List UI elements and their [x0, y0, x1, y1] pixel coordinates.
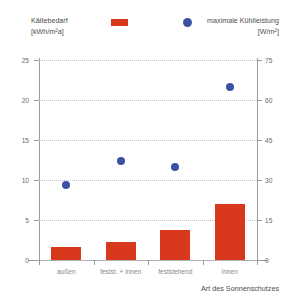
x-tick: [257, 260, 258, 265]
y-axis-right-line: [257, 58, 258, 262]
x-axis-title: Art des Sonnenschutzes: [0, 284, 279, 293]
y-tick-label-right: 30: [265, 177, 297, 184]
bar: [51, 247, 81, 260]
gridline: [39, 140, 257, 141]
y-tick-right: [257, 140, 262, 141]
x-tick: [39, 260, 40, 265]
y-tick-label-right: 60: [265, 97, 297, 104]
legend-label-kuehlleistung: maximale Kühlleistung: [207, 16, 279, 27]
y-tick-left: [34, 220, 39, 221]
blue-circle-marker-icon: [183, 18, 192, 27]
plot-area: 0510152025 01530456075 außenfestst. + in…: [39, 60, 257, 260]
gridline: [39, 180, 257, 181]
data-point: [171, 163, 179, 171]
bar: [160, 230, 190, 260]
legend-unit-kaeltebedarf: [kWh/m²a]: [31, 27, 68, 38]
x-tick-label: außen: [57, 268, 76, 275]
y-tick-label-left: 25: [0, 57, 29, 64]
y-tick-label-left: 15: [0, 137, 29, 144]
data-point: [117, 157, 125, 165]
legend-entry-kuehlleistung: maximale Kühlleistung [W/m²]: [207, 16, 279, 37]
x-tick-label: festst. + innen: [100, 268, 141, 275]
data-point: [226, 83, 234, 91]
gridline: [39, 100, 257, 101]
gridline: [39, 60, 257, 61]
y-tick-label-left: 0: [0, 257, 29, 264]
y-tick-label-left: 5: [0, 217, 29, 224]
x-tick-label: feststehend: [158, 268, 192, 275]
y-tick-right: [257, 100, 262, 101]
y-tick-label-left: 10: [0, 177, 29, 184]
x-tick: [94, 260, 95, 265]
y-tick-label-right: 75: [265, 57, 297, 64]
chart-container: Kältebedarf [kWh/m²a] maximale Kühlleist…: [0, 0, 297, 301]
y-tick-left: [34, 140, 39, 141]
y-tick-right: [257, 60, 262, 61]
y-tick-right: [257, 180, 262, 181]
x-tick: [148, 260, 149, 265]
legend-label-kaeltebedarf: Kältebedarf: [31, 16, 68, 27]
y-tick-label-right: 45: [265, 137, 297, 144]
chart-legend: Kältebedarf [kWh/m²a] maximale Kühlleist…: [0, 16, 297, 52]
legend-unit-kuehlleistung: [W/m²]: [207, 27, 279, 38]
legend-entry-kaeltebedarf: Kältebedarf [kWh/m²a]: [31, 16, 68, 37]
bar: [215, 204, 245, 260]
red-square-marker-icon: [111, 19, 128, 26]
y-tick-left: [34, 180, 39, 181]
y-tick-right: [257, 220, 262, 221]
x-tick: [203, 260, 204, 265]
y-tick-label-right: 15: [265, 217, 297, 224]
y-tick-left: [34, 100, 39, 101]
y-tick-label-left: 20: [0, 97, 29, 104]
y-tick-label-right: 0: [265, 257, 297, 264]
x-tick-label: innen: [222, 268, 238, 275]
bar: [106, 242, 136, 260]
data-point: [62, 181, 70, 189]
y-tick-left: [34, 60, 39, 61]
